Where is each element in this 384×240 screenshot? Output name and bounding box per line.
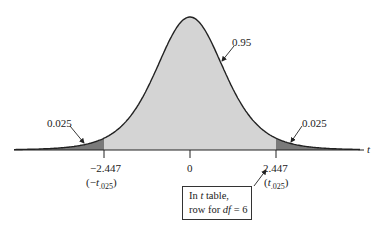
arrow-right-tail — [291, 126, 302, 142]
tick-label-center: 0 — [187, 163, 193, 174]
tick-label-right: 2.447 — [263, 163, 288, 174]
left-tail-label: 0.025 — [47, 118, 72, 129]
center-area-label: 0.95 — [232, 37, 251, 48]
callout-box: In t table, row for df = 6 — [182, 186, 252, 220]
paren: ) — [285, 176, 289, 188]
callout-line-1: In t table, — [189, 189, 251, 203]
paren: (− — [86, 176, 96, 188]
tick-label-left: −2.447 — [90, 163, 121, 174]
right-tail-label: 0.025 — [302, 118, 327, 129]
subscript: .025 — [271, 182, 285, 191]
axis-label-t: t — [367, 144, 370, 155]
arrow-left-tail — [70, 126, 84, 143]
callout-line-2: row for df = 6 — [189, 203, 251, 217]
text: = 6 — [231, 204, 247, 215]
subscript: .025 — [99, 182, 113, 191]
df-symbol: df — [223, 204, 231, 215]
arrow-center — [222, 46, 234, 61]
text: table, — [203, 190, 229, 201]
text: In — [189, 190, 200, 201]
paren: ) — [113, 176, 117, 188]
tick-sublabel-left: (−t.025) — [86, 177, 117, 191]
text: row for — [189, 204, 223, 215]
tick-sublabel-right: (t.025) — [264, 177, 288, 191]
